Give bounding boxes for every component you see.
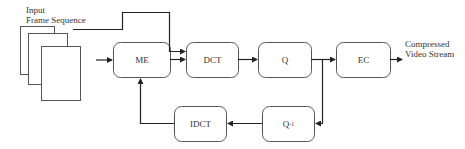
q-inverse-label: Q-1 xyxy=(262,106,315,142)
input-label-line2: Frame Sequence xyxy=(26,15,86,25)
ec-label: EC xyxy=(336,42,391,78)
frame-3 xyxy=(42,47,81,101)
output-label-line2: Video Stream xyxy=(405,49,454,59)
q-label: Q xyxy=(258,42,312,78)
output-label: Compressed Video Stream xyxy=(405,39,454,59)
frame-stack xyxy=(21,27,81,101)
q-inverse-exponent: -1 xyxy=(289,121,294,127)
input-label: Input Frame Sequence xyxy=(26,5,86,25)
output-label-line1: Compressed xyxy=(405,39,454,49)
dct-label: DCT xyxy=(186,42,239,78)
idct-label: IDCT xyxy=(174,106,227,142)
idct-to-me-feedback xyxy=(141,79,175,124)
me-label: ME xyxy=(113,42,171,78)
q-to-qinv-path xyxy=(316,60,323,124)
input-label-line1: Input xyxy=(26,5,86,15)
